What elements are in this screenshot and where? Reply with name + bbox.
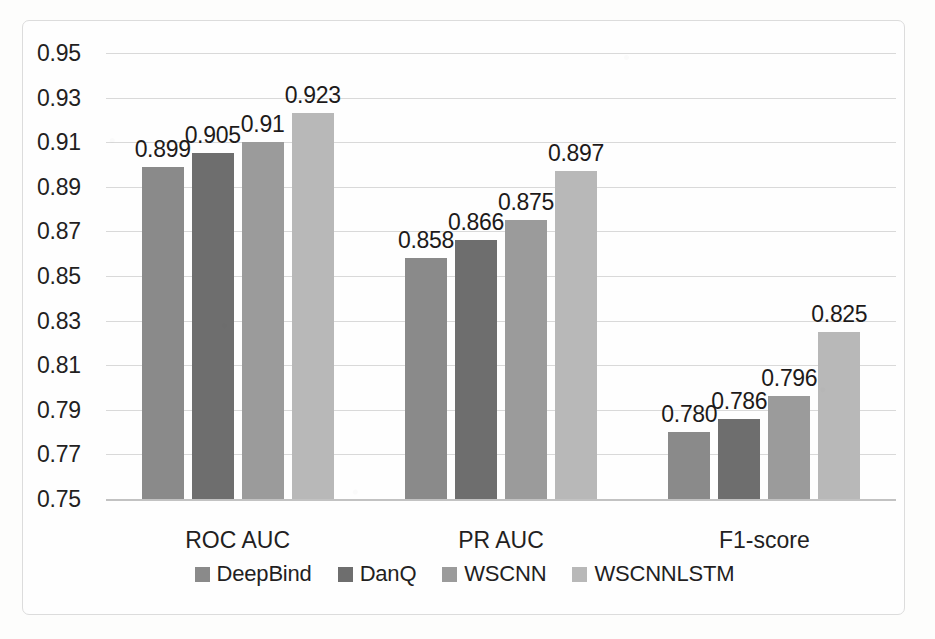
bar[interactable] (668, 432, 710, 499)
bar-value-label: 0.897 (548, 140, 604, 167)
y-axis-tick-label: 0.85 (37, 263, 103, 290)
chart-frame: 0.950.930.910.890.870.850.830.810.790.77… (22, 20, 905, 615)
bar-column[interactable]: 0.897 (555, 53, 597, 499)
bar-value-label: 0.875 (498, 189, 554, 216)
y-axis-tick-label: 0.91 (37, 129, 103, 156)
legend-label: DanQ (360, 561, 417, 587)
bar[interactable] (818, 332, 860, 499)
plot-area: 0.8990.9050.910.9230.8580.8660.8750.8970… (106, 53, 896, 499)
legend-swatch-icon (572, 567, 587, 582)
bar[interactable] (192, 153, 234, 499)
legend-label: DeepBind (217, 561, 312, 587)
bar-value-label: 0.899 (135, 136, 191, 163)
bar[interactable] (292, 113, 334, 499)
legend-item[interactable]: WSCNN (442, 561, 546, 587)
bar-value-label: 0.858 (398, 227, 454, 254)
bar-column[interactable]: 0.899 (142, 53, 184, 499)
legend-swatch-icon (195, 567, 210, 582)
legend-label: WSCNN (464, 561, 546, 587)
x-axis-tick-label: PR AUC (458, 527, 544, 554)
bar[interactable] (405, 258, 447, 499)
bar-column[interactable]: 0.786 (718, 53, 760, 499)
legend-swatch-icon (442, 567, 457, 582)
y-axis-tick-label: 0.79 (37, 396, 103, 423)
bar-group: 0.8580.8660.8750.897 (405, 53, 597, 499)
bar-column[interactable]: 0.780 (668, 53, 710, 499)
bar-value-label: 0.825 (811, 301, 867, 328)
x-axis-category-labels: ROC AUCPR AUCF1-score (106, 517, 896, 557)
legend-swatch-icon (338, 567, 353, 582)
chart-legend: DeepBindDanQWSCNNWSCNNLSTM (23, 561, 906, 587)
bar[interactable] (768, 396, 810, 499)
axis-baseline (106, 499, 896, 501)
bar-group: 0.7800.7860.7960.825 (668, 53, 860, 499)
y-axis-tick-label: 0.95 (37, 40, 103, 67)
y-axis: 0.950.930.910.890.870.850.830.810.790.77… (37, 53, 103, 499)
bar[interactable] (455, 240, 497, 499)
legend-item[interactable]: DeepBind (195, 561, 312, 587)
bar[interactable] (142, 167, 184, 499)
legend-label: WSCNNLSTM (594, 561, 734, 587)
bar[interactable] (505, 220, 547, 499)
bar-column[interactable]: 0.875 (505, 53, 547, 499)
bar[interactable] (555, 171, 597, 499)
bar-column[interactable]: 0.858 (405, 53, 447, 499)
bar-value-label: 0.905 (185, 122, 241, 149)
legend-item[interactable]: DanQ (338, 561, 417, 587)
y-axis-tick-label: 0.75 (37, 486, 103, 513)
x-axis-tick-label: F1-score (719, 527, 810, 554)
bar[interactable] (242, 142, 284, 499)
bar-column[interactable]: 0.866 (455, 53, 497, 499)
bar-value-label: 0.780 (661, 401, 717, 428)
y-axis-tick-label: 0.83 (37, 307, 103, 334)
bar-column[interactable]: 0.923 (292, 53, 334, 499)
bar-column[interactable]: 0.796 (768, 53, 810, 499)
bar-column[interactable]: 0.825 (818, 53, 860, 499)
bar-value-label: 0.786 (711, 388, 767, 415)
y-axis-tick-label: 0.81 (37, 352, 103, 379)
bar[interactable] (718, 419, 760, 499)
bar-value-label: 0.923 (285, 82, 341, 109)
bar-column[interactable]: 0.905 (192, 53, 234, 499)
y-axis-tick-label: 0.87 (37, 218, 103, 245)
y-axis-tick-label: 0.93 (37, 84, 103, 111)
bar-value-label: 0.91 (241, 111, 285, 138)
y-axis-tick-label: 0.77 (37, 441, 103, 468)
x-axis-tick-label: ROC AUC (185, 527, 290, 554)
y-axis-tick-label: 0.89 (37, 173, 103, 200)
legend-item[interactable]: WSCNNLSTM (572, 561, 734, 587)
bar-value-label: 0.796 (761, 365, 817, 392)
bar-column[interactable]: 0.91 (242, 53, 284, 499)
bar-value-label: 0.866 (448, 209, 504, 236)
bar-group: 0.8990.9050.910.923 (142, 53, 334, 499)
